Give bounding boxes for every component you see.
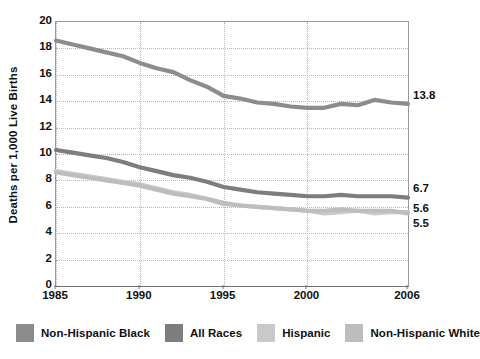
series-value-label: 5.5 — [413, 219, 429, 231]
y-tick-label: 14 — [22, 94, 52, 106]
legend-item[interactable]: All Races — [165, 324, 242, 342]
legend-swatch-icon — [165, 324, 183, 342]
legend-swatch-icon — [345, 324, 363, 342]
series-line — [56, 40, 408, 107]
y-tick-label: 8 — [22, 174, 52, 186]
y-tick-label: 2 — [22, 253, 52, 265]
series-value-label: 13.8 — [413, 90, 435, 102]
legend-swatch-icon — [16, 324, 34, 342]
x-tick-label: 1990 — [126, 289, 152, 302]
series-line — [56, 150, 408, 198]
legend-item-label: All Races — [190, 327, 242, 339]
legend-item[interactable]: Non-Hispanic Black — [16, 324, 150, 342]
y-axis-title-text: Deaths per 1,000 Live Births — [7, 67, 19, 224]
y-tick-label: 20 — [22, 15, 52, 27]
series-lines — [56, 22, 408, 286]
series-line — [56, 171, 408, 213]
y-tick-label: 12 — [22, 121, 52, 133]
x-tick-label: 2006 — [394, 289, 420, 302]
y-axis-tick-labels: 02468101214161820 — [22, 21, 52, 285]
legend-swatch-icon — [257, 324, 275, 342]
y-tick-label: 16 — [22, 68, 52, 80]
series-value-label: 5.6 — [413, 203, 429, 215]
legend-item[interactable]: Hispanic — [257, 324, 330, 342]
series-value-label: 6.7 — [413, 183, 429, 195]
y-tick-label: 18 — [22, 42, 52, 54]
legend-item-label: Non-Hispanic Black — [41, 327, 150, 339]
y-tick-label: 10 — [22, 147, 52, 159]
x-tick-label: 1985 — [42, 289, 68, 302]
plot-inner — [56, 22, 408, 286]
x-tick-label: 1995 — [210, 289, 236, 302]
plot-area — [55, 21, 409, 287]
y-tick-label: 6 — [22, 200, 52, 212]
x-tick-label: 2000 — [294, 289, 320, 302]
y-tick-label: 4 — [22, 226, 52, 238]
legend-item[interactable]: Non-Hispanic White — [345, 324, 480, 342]
chart-legend: Non-Hispanic BlackAll RacesHispanicNon-H… — [16, 320, 436, 346]
legend-item-label: Hispanic — [282, 327, 330, 339]
legend-item-label: Non-Hispanic White — [370, 327, 480, 339]
x-axis-tick-labels: 19851990199520002006 — [55, 289, 407, 307]
